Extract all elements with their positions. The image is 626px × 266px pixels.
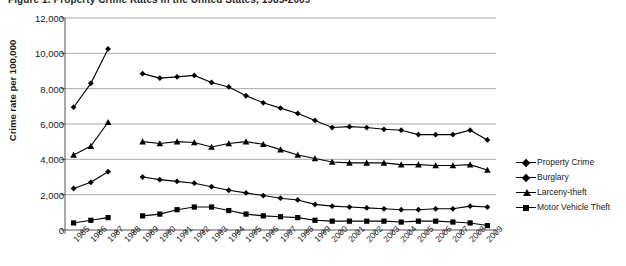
y-axis-tick-labels: 02,0004,0006,0008,00010,00012,000 bbox=[18, 0, 64, 266]
y-tick-label: 10,000 bbox=[35, 48, 64, 59]
legend-diamond-icon bbox=[516, 158, 536, 168]
data-point bbox=[226, 187, 232, 193]
data-point bbox=[140, 71, 146, 77]
legend-item-label: Motor Vehicle Theft bbox=[537, 203, 610, 212]
data-point bbox=[295, 197, 301, 203]
data-point bbox=[209, 204, 214, 209]
data-point bbox=[347, 124, 353, 130]
data-point bbox=[174, 207, 179, 212]
data-point bbox=[433, 219, 438, 224]
data-point bbox=[312, 218, 317, 223]
data-point bbox=[174, 179, 180, 185]
data-point bbox=[106, 215, 111, 220]
data-point bbox=[347, 219, 352, 224]
data-point bbox=[467, 127, 473, 133]
data-point bbox=[157, 212, 162, 217]
legend-item[interactable]: Larceny-theft bbox=[516, 185, 610, 200]
data-point bbox=[105, 46, 111, 52]
data-point bbox=[364, 125, 370, 131]
legend-item[interactable]: Property Crime bbox=[516, 155, 610, 170]
data-point bbox=[209, 80, 215, 86]
property-crime-rates-line-chart: Figure 1. Property Crime Rates in the Un… bbox=[0, 0, 626, 266]
legend-item[interactable]: Burglary bbox=[516, 170, 610, 185]
data-point bbox=[330, 219, 335, 224]
data-point bbox=[260, 100, 266, 106]
legend-item[interactable]: Motor Vehicle Theft bbox=[516, 200, 610, 215]
data-point bbox=[416, 132, 422, 138]
data-point bbox=[278, 195, 284, 201]
data-point bbox=[260, 193, 266, 199]
data-point bbox=[157, 177, 163, 183]
data-point bbox=[381, 219, 386, 224]
data-point bbox=[468, 220, 473, 225]
data-point bbox=[399, 219, 404, 224]
legend-diamond-icon bbox=[516, 173, 536, 183]
y-tick-label: 0 bbox=[59, 225, 64, 236]
data-point bbox=[398, 127, 404, 133]
data-point bbox=[433, 206, 439, 212]
data-point bbox=[88, 179, 94, 185]
series-line bbox=[74, 122, 108, 155]
y-tick-label: 8,000 bbox=[40, 83, 64, 94]
data-point bbox=[191, 180, 197, 186]
chart-legend: Property CrimeBurglaryLarceny-theftMotor… bbox=[516, 155, 610, 215]
data-point bbox=[174, 74, 180, 80]
data-point bbox=[192, 204, 197, 209]
data-point bbox=[416, 219, 421, 224]
data-point bbox=[243, 212, 248, 217]
data-point bbox=[329, 125, 335, 131]
data-point bbox=[433, 132, 439, 138]
data-point bbox=[364, 205, 370, 211]
data-point bbox=[450, 132, 456, 138]
data-point bbox=[485, 223, 490, 228]
data-point bbox=[140, 174, 146, 180]
data-point bbox=[416, 207, 422, 213]
data-point bbox=[295, 111, 301, 117]
data-point bbox=[70, 152, 77, 158]
y-tick-label: 12,000 bbox=[35, 13, 64, 24]
plot-area bbox=[0, 0, 626, 266]
data-point bbox=[484, 204, 490, 210]
series-larceny-theft bbox=[70, 119, 490, 173]
data-point bbox=[261, 213, 266, 218]
data-point bbox=[71, 220, 76, 225]
legend-item-label: Larceny-theft bbox=[537, 188, 587, 197]
series-property-crime bbox=[71, 46, 491, 143]
data-point bbox=[484, 137, 490, 143]
data-point bbox=[105, 169, 111, 175]
data-point bbox=[278, 105, 284, 111]
legend-square-icon bbox=[516, 203, 536, 213]
data-point bbox=[105, 119, 112, 125]
data-point bbox=[157, 75, 163, 81]
legend-item-label: Burglary bbox=[537, 173, 569, 182]
data-point bbox=[450, 219, 455, 224]
data-point bbox=[381, 206, 387, 212]
data-point bbox=[312, 118, 318, 124]
series-line bbox=[143, 74, 488, 140]
data-point bbox=[71, 186, 77, 192]
data-point bbox=[347, 204, 353, 210]
data-point bbox=[329, 203, 335, 209]
data-point bbox=[295, 215, 300, 220]
series-burglary bbox=[71, 169, 491, 213]
data-point bbox=[226, 208, 231, 213]
data-point bbox=[364, 219, 369, 224]
y-axis-title: Crime rate per 100,000 bbox=[7, 11, 18, 171]
y-tick-label: 4,000 bbox=[40, 154, 64, 165]
data-point bbox=[191, 73, 197, 79]
data-point bbox=[398, 207, 404, 213]
data-point bbox=[140, 213, 145, 218]
y-tick-label: 2,000 bbox=[40, 189, 64, 200]
data-point bbox=[209, 184, 215, 190]
data-point bbox=[278, 214, 283, 219]
series-line bbox=[74, 49, 108, 107]
data-point bbox=[88, 218, 93, 223]
data-point bbox=[381, 126, 387, 132]
legend-triangle-icon bbox=[516, 188, 536, 198]
legend-item-label: Property Crime bbox=[537, 158, 594, 167]
y-tick-label: 6,000 bbox=[40, 119, 64, 130]
data-point bbox=[243, 93, 249, 99]
data-point bbox=[467, 203, 473, 209]
data-point bbox=[450, 206, 456, 212]
data-point bbox=[312, 201, 318, 207]
